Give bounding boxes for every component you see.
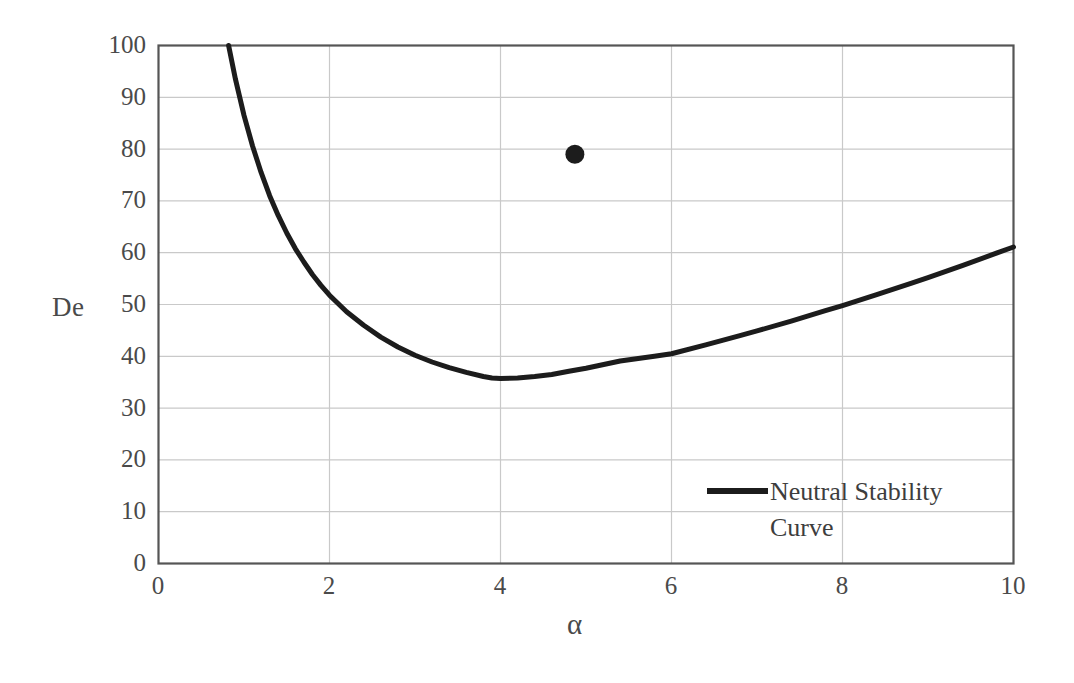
series-layer	[229, 46, 1014, 379]
chart-figure: De α 100 90 80 70 60 50 40 30 20 10 0 0 …	[0, 0, 1074, 683]
plot-area	[0, 0, 1074, 683]
legend-label-line-1: Neutral Stability	[770, 474, 943, 510]
legend-label-line-2: Curve	[770, 510, 834, 546]
